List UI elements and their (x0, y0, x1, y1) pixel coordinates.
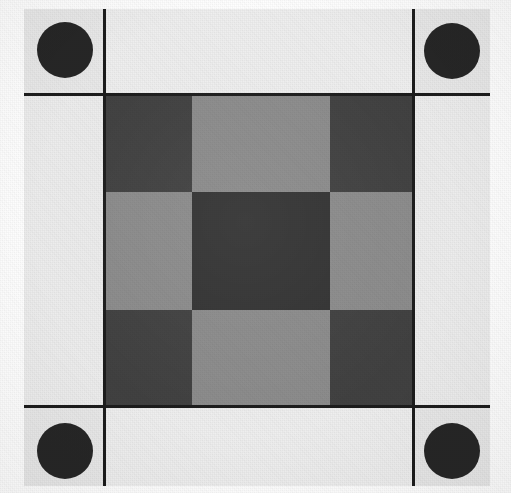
horizontal-rule-1 (24, 93, 490, 96)
fiducial-bottom-left (37, 423, 93, 479)
fiducial-top-left (37, 22, 93, 78)
fiducial-top-right (424, 23, 480, 79)
patch-r3c2 (192, 310, 330, 405)
vertical-rule-1 (103, 9, 106, 486)
patch-r3c3 (330, 310, 412, 405)
patch-r1c3 (330, 93, 412, 192)
margin-top (103, 9, 412, 93)
patch-r1c2 (192, 93, 330, 192)
margin-left (24, 93, 103, 405)
fiducial-bottom-right (424, 423, 480, 479)
vertical-rule-2 (412, 9, 415, 486)
margin-bottom (103, 405, 412, 486)
calibration-target-image (0, 0, 511, 493)
margin-right (412, 93, 490, 405)
horizontal-rule-2 (24, 405, 490, 408)
patch-r2c3 (330, 192, 412, 310)
patch-r2c1 (103, 192, 192, 310)
patch-r2c2 (192, 192, 330, 310)
patch-r3c1 (103, 310, 192, 405)
patch-r1c1 (103, 93, 192, 192)
